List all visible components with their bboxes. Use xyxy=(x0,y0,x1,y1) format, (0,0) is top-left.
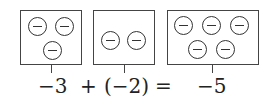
term-1: −3 xyxy=(38,74,67,98)
equals-operator: = xyxy=(155,74,172,98)
counter-box-2 xyxy=(93,10,155,65)
negative-counter-icon xyxy=(101,31,120,50)
negative-counter-icon xyxy=(202,16,221,35)
counter-box-3 xyxy=(167,10,259,65)
box-2-tick xyxy=(124,65,125,73)
negative-counter-icon xyxy=(28,17,47,36)
counter-box-1 xyxy=(20,10,82,65)
result: −5 xyxy=(197,74,226,98)
negative-counter-icon xyxy=(188,40,207,59)
negative-counter-icon xyxy=(216,40,235,59)
plus-operator: + xyxy=(80,74,97,98)
box-1-tick xyxy=(51,65,52,73)
negative-counter-icon xyxy=(174,16,193,35)
box-3-tick xyxy=(212,65,213,73)
negative-counter-icon xyxy=(127,31,146,50)
term-2: (−2) xyxy=(104,74,149,98)
negative-counter-icon xyxy=(43,41,62,60)
negative-counter-icon xyxy=(55,17,74,36)
negative-counter-icon xyxy=(230,16,249,35)
